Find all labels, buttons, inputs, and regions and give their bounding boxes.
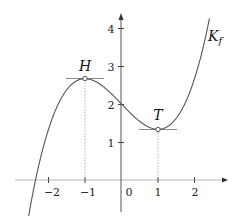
x-tick-label: 1 [155, 186, 162, 199]
label-t: T [153, 107, 164, 123]
x-tick-label: 2 [192, 186, 199, 199]
y-axis-arrow-icon [119, 13, 124, 20]
x-tick-label: −2 [44, 186, 60, 199]
y-tick-label: 3 [108, 61, 115, 74]
label-h: H [78, 58, 92, 74]
y-tick-label: 1 [108, 137, 115, 150]
point-h [83, 76, 87, 80]
curve-label: Kf [207, 28, 224, 46]
function-graph: −2 −1 0 1 2 1 2 3 4 H T Kf [0, 0, 240, 216]
x-axis-arrow-icon [222, 178, 228, 183]
x-tick-label: 0 [126, 186, 133, 199]
point-t [156, 127, 160, 131]
x-tick-label: −1 [80, 186, 96, 199]
y-tick-label: 2 [108, 99, 115, 112]
y-tick-label: 4 [108, 23, 115, 36]
